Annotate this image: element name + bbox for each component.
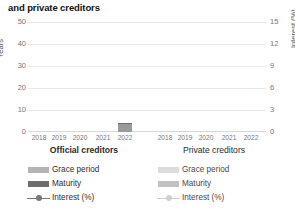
interest-marker-dot-faded-icon bbox=[166, 195, 172, 201]
x-tick-right-2022: 2022 bbox=[239, 134, 263, 142]
interest-marker-dot-icon bbox=[36, 195, 42, 201]
legend-swatch-grace-period-right-wrap bbox=[156, 163, 182, 177]
grace-period-swatch-faded-icon bbox=[158, 167, 179, 173]
y-tick-left-50: 50 bbox=[4, 18, 26, 26]
panel-official-creditors: 2018 2019 2020 2021 2022 bbox=[28, 22, 140, 132]
legend-private-creditors: Grace period Maturity Interest (%) bbox=[156, 163, 288, 205]
y-tick-right-3: 3 bbox=[270, 106, 286, 114]
legend-item-interest-right[interactable]: Interest (%) bbox=[156, 191, 288, 205]
grace-period-swatch-icon bbox=[28, 167, 49, 173]
legend-item-grace-period-right[interactable]: Grace period bbox=[156, 163, 288, 177]
legend-label-grace-period-right: Grace period bbox=[182, 163, 229, 177]
x-tick-right-2020: 2020 bbox=[194, 134, 218, 142]
legend-swatch-maturity-left-wrap bbox=[26, 177, 52, 191]
panel-private-creditors: 2018 2019 2020 2021 2022 bbox=[154, 22, 266, 132]
y-tick-right-12: 12 bbox=[270, 40, 286, 48]
chart-figure: and private creditors Years Interest (%)… bbox=[0, 0, 295, 212]
legend-item-interest-left[interactable]: Interest (%) bbox=[26, 191, 158, 205]
legend-swatch-interest-right-wrap bbox=[156, 191, 182, 205]
x-tick-left-2020: 2020 bbox=[68, 134, 92, 142]
legend-label-interest-left: Interest (%) bbox=[52, 191, 94, 205]
legend-item-maturity-left[interactable]: Maturity bbox=[26, 177, 158, 191]
y-axis-label-right: Interest (%) bbox=[289, 9, 295, 48]
plot-area: 2018 2019 2020 2021 2022 2018 2019 2020 … bbox=[28, 22, 266, 132]
y-tick-left-30: 30 bbox=[4, 62, 26, 70]
y-tick-right-0: 0 bbox=[270, 128, 286, 136]
x-axis-ticks-left: 2018 2019 2020 2021 2022 bbox=[28, 134, 140, 144]
x-tick-right-2021: 2021 bbox=[217, 134, 241, 142]
subplot-title-official: Official creditors bbox=[22, 144, 146, 156]
x-tick-left-2021: 2021 bbox=[91, 134, 115, 142]
maturity-swatch-faded-icon bbox=[158, 181, 179, 187]
legend-label-grace-period-left: Grace period bbox=[52, 163, 99, 177]
legend-label-maturity-left: Maturity bbox=[52, 177, 81, 191]
y-tick-left-0: 0 bbox=[4, 128, 26, 136]
x-tick-left-2022: 2022 bbox=[113, 134, 137, 142]
chart-title: and private creditors bbox=[8, 0, 288, 13]
legend-swatch-maturity-right-wrap bbox=[156, 177, 182, 191]
y-tick-left-20: 20 bbox=[4, 84, 26, 92]
legend-swatch-grace-period-left-wrap bbox=[26, 163, 52, 177]
legend-label-maturity-right: Maturity bbox=[182, 177, 211, 191]
legend-item-maturity-right[interactable]: Maturity bbox=[156, 177, 288, 191]
subplot-title-private: Private creditors bbox=[152, 144, 276, 156]
y-tick-left-10: 10 bbox=[4, 106, 26, 114]
y-tick-right-6: 6 bbox=[270, 84, 286, 92]
x-axis-ticks-right: 2018 2019 2020 2021 2022 bbox=[154, 134, 266, 144]
y-tick-right-9: 9 bbox=[270, 62, 286, 70]
y-tick-left-40: 40 bbox=[4, 40, 26, 48]
legend-swatch-interest-left-wrap bbox=[26, 191, 52, 205]
legend-label-interest-right: Interest (%) bbox=[182, 191, 224, 205]
legend-official-creditors: Grace period Maturity Interest (%) bbox=[26, 163, 158, 205]
legend-item-grace-period-left[interactable]: Grace period bbox=[26, 163, 158, 177]
bar-official-2022-grace-period bbox=[118, 123, 132, 132]
maturity-swatch-icon bbox=[28, 181, 49, 187]
chart-title-text: and private creditors bbox=[8, 2, 100, 13]
y-tick-right-15: 15 bbox=[270, 18, 286, 26]
